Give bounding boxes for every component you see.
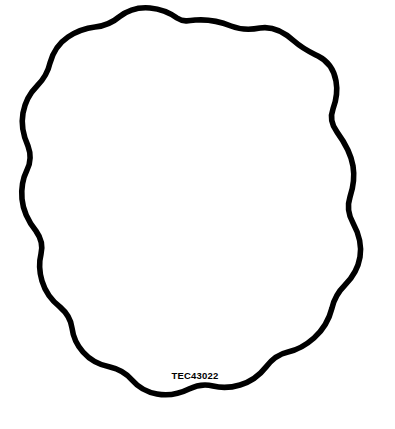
part-outline-svg: TEC43022 — [0, 0, 395, 429]
technical-drawing-figure: TEC43022 — [0, 0, 395, 429]
part-number-label: TEC43022 — [171, 370, 218, 381]
part-outline-contour — [22, 8, 361, 395]
